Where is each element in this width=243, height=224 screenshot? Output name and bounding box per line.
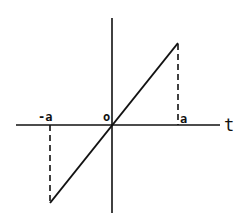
ramp-line [50,43,178,203]
tick-label-negative-a: -a [38,110,52,124]
tick-label-positive-a: a [180,112,187,126]
axis-label-t: t [224,115,234,135]
ramp-diagram: -a o a t [0,0,243,224]
tick-label-origin: o [103,110,110,124]
